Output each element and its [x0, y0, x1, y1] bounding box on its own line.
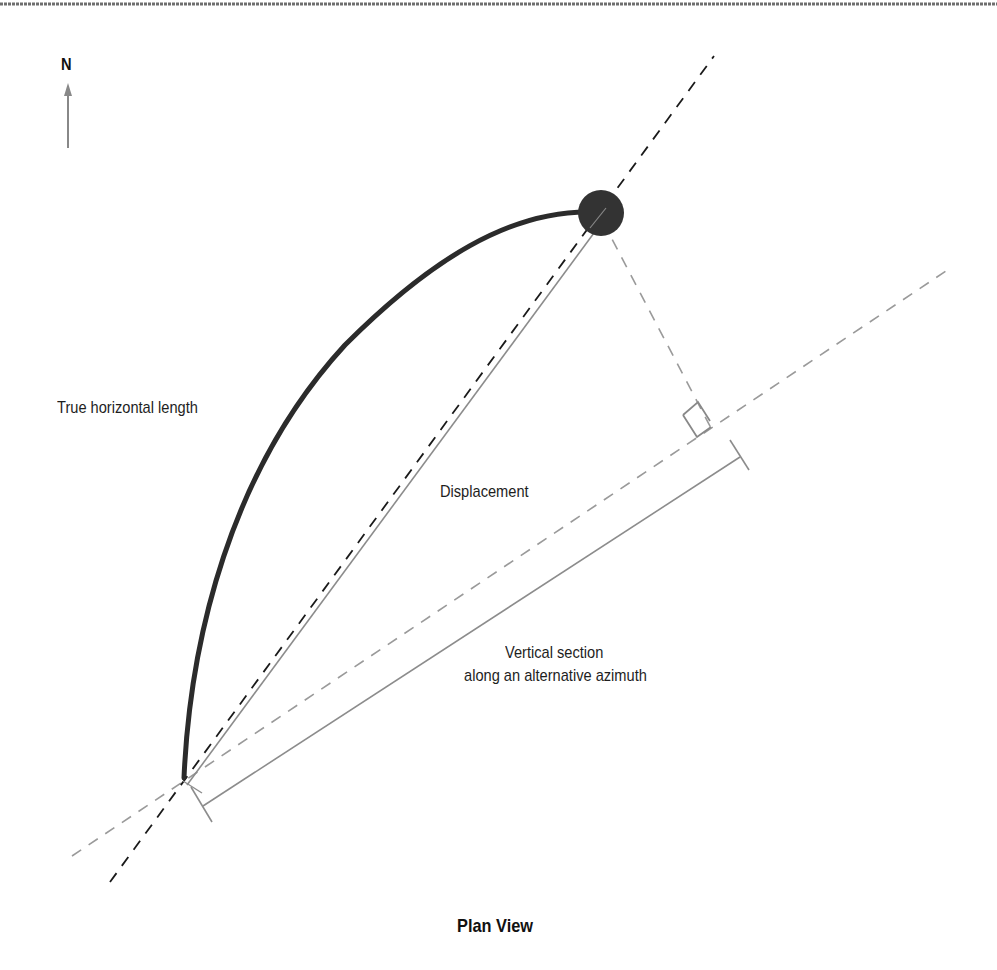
alternative-azimuth-line	[72, 271, 946, 856]
true-horizontal-length-label: True horizontal length	[57, 398, 198, 418]
projection-line	[603, 222, 711, 428]
north-arrow-icon	[64, 83, 72, 148]
well-path	[184, 212, 592, 778]
vertical-section-label-line1: Vertical section	[505, 643, 603, 663]
plan-view-diagram: N True horizontal length Displacement Ve…	[0, 0, 997, 970]
displacement-label: Displacement	[440, 482, 529, 502]
displacement-azimuth-line	[110, 56, 714, 882]
north-label: N	[61, 55, 72, 75]
target-circle	[578, 190, 624, 236]
diagram-title: Plan View	[457, 915, 533, 937]
vertical-section-label-line2: along an alternative azimuth	[464, 666, 647, 686]
displacement-line	[187, 218, 605, 785]
